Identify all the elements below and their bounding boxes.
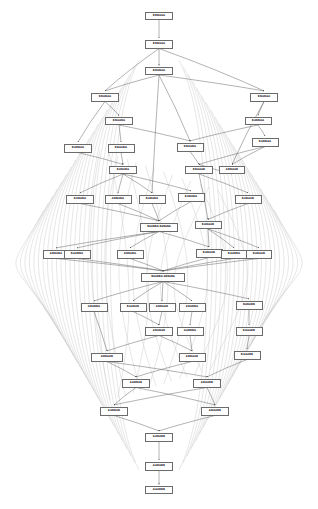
graph-node[interactable]: AABBBA bbox=[177, 327, 204, 336]
graph-long-edge bbox=[195, 184, 228, 375]
graph-node[interactable]: BABABA bbox=[109, 166, 137, 174]
graph-node[interactable]: BABABA bbox=[139, 195, 166, 204]
graph-node[interactable]: BAABAB bbox=[120, 303, 147, 312]
graph-node[interactable]: BAABBA ABBABA bbox=[141, 273, 185, 282]
graph-node[interactable]: BBAAAB bbox=[185, 166, 213, 174]
graph-node[interactable]: BBBAAA bbox=[145, 12, 173, 20]
graph-long-edge bbox=[232, 153, 266, 377]
graph-node[interactable]: BAABBA bbox=[64, 250, 91, 259]
graph-node[interactable]: ABABBA bbox=[179, 303, 206, 312]
graph-node[interactable]: BBBAAA bbox=[145, 40, 173, 49]
graph-node[interactable]: BABABB bbox=[236, 301, 263, 310]
graph-long-edge bbox=[52, 153, 86, 377]
graph-node[interactable]: BABBAA bbox=[252, 138, 279, 147]
graph-edge bbox=[114, 388, 136, 405]
graph-node[interactable]: BABAAB bbox=[195, 221, 222, 229]
graph-node[interactable]: BAABBA bbox=[221, 250, 247, 259]
graph-long-edge bbox=[47, 160, 82, 370]
graph-edge bbox=[114, 388, 207, 405]
graph-edge bbox=[258, 102, 264, 116]
graph-node[interactable]: ABAABB bbox=[201, 407, 229, 416]
graph-long-edge bbox=[29, 189, 66, 342]
graph-edge bbox=[159, 312, 162, 325]
graph-edge bbox=[130, 259, 163, 271]
graph-edge bbox=[119, 125, 190, 141]
graph-node[interactable]: BABAAB bbox=[235, 195, 262, 204]
graph-node[interactable]: ABBABA bbox=[105, 195, 132, 204]
graph-node[interactable]: ABBAAB bbox=[219, 166, 245, 174]
graph-edge bbox=[105, 102, 119, 116]
graph-node[interactable]: ABBABA bbox=[117, 250, 144, 259]
graph-node[interactable]: ABBAAB bbox=[91, 353, 123, 362]
graph-edge bbox=[118, 174, 123, 193]
graph-node[interactable]: BAABBA BABABA bbox=[140, 223, 178, 232]
graph-node[interactable]: BABBAA bbox=[64, 144, 92, 153]
graph-long-edge bbox=[236, 160, 271, 370]
graph-long-edge bbox=[74, 117, 106, 413]
graph-edge bbox=[121, 153, 123, 165]
graph-node[interactable]: BAAABB bbox=[236, 327, 263, 336]
graph-node[interactable]: BBABAA bbox=[91, 93, 119, 102]
graph-node[interactable]: ABBAAB bbox=[179, 353, 206, 362]
graph-edge bbox=[105, 75, 159, 91]
graph-edge bbox=[207, 388, 215, 405]
graph-node[interactable]: ABBAAB bbox=[149, 303, 176, 312]
graph-edge bbox=[159, 416, 215, 431]
graph-edge bbox=[159, 75, 190, 141]
graph-edge bbox=[94, 312, 107, 351]
graph-edge bbox=[159, 202, 191, 221]
graph-edge bbox=[159, 49, 264, 91]
graph-edge bbox=[77, 259, 163, 271]
graph-node[interactable]: ABABBA bbox=[81, 303, 108, 312]
graph-node[interactable]: BBAABA bbox=[105, 117, 133, 125]
graph-edge bbox=[199, 174, 248, 193]
graph-edge bbox=[258, 125, 265, 136]
graph-node[interactable]: BABAAB bbox=[196, 249, 223, 258]
graph-edge bbox=[163, 258, 209, 271]
graph-edge bbox=[107, 362, 136, 377]
graph-edge bbox=[133, 312, 159, 325]
graph-node[interactable]: BABAAB bbox=[246, 250, 272, 259]
graph-node[interactable]: BBAABA bbox=[177, 143, 204, 152]
graph-edge bbox=[77, 232, 159, 248]
graph-edge bbox=[208, 229, 209, 247]
graph-long-edge bbox=[211, 117, 243, 413]
graph-canvas: BBBAAABBBAAABBABAABBABAABBABAABBAABABABB… bbox=[0, 0, 318, 509]
graph-node[interactable]: BBAABA bbox=[108, 144, 135, 153]
graph-node[interactable]: BBABAA bbox=[145, 67, 173, 75]
graph-node[interactable]: AABBAB bbox=[100, 407, 128, 416]
graph-edge bbox=[94, 282, 163, 301]
graph-node[interactable]: BBABAA bbox=[250, 93, 278, 102]
graph-node[interactable]: BABBAA bbox=[245, 117, 272, 125]
graph-node[interactable]: BABABA bbox=[178, 193, 205, 202]
graph-node[interactable]: BABABA bbox=[66, 195, 94, 204]
graph-node[interactable]: AABABB bbox=[145, 433, 173, 442]
graph-edge bbox=[162, 282, 163, 301]
graph-node[interactable]: ABABAB bbox=[145, 327, 173, 336]
graph-edge bbox=[190, 312, 192, 325]
graph-edge bbox=[152, 75, 159, 193]
graph-node[interactable]: AABABB bbox=[145, 462, 173, 471]
graph-edge bbox=[190, 152, 199, 165]
graph-node[interactable]: BAAABB bbox=[234, 351, 261, 360]
graph-node[interactable]: ABAABB bbox=[193, 379, 221, 388]
graph-long-edge bbox=[252, 189, 289, 342]
graph-node[interactable]: AABBAB bbox=[122, 379, 150, 388]
graph-edge bbox=[136, 388, 215, 405]
graph-node[interactable]: AAABBB bbox=[145, 486, 173, 494]
graph-edge bbox=[159, 75, 264, 91]
